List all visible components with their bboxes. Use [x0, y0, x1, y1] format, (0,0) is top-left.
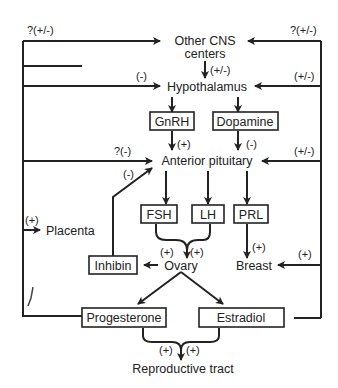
- sign-placenta: (+): [25, 214, 39, 226]
- gnrh-label: GnRH: [155, 115, 190, 129]
- left-feedback-lines: [22, 41, 160, 317]
- placenta-label: Placenta: [46, 224, 95, 238]
- sign-right-breast: (+): [298, 248, 312, 260]
- sign-left-ap: ?(-): [114, 145, 131, 157]
- sign-right-cns: ?(+/-): [290, 24, 317, 36]
- progesterone-label: Progesterone: [86, 311, 161, 325]
- inhibin-label: Inhibin: [95, 259, 132, 273]
- sign-lh-ovary: (+): [190, 246, 204, 258]
- sign-left-hypo: (-): [136, 70, 147, 82]
- right-feedback-lines: [248, 41, 321, 318]
- sign-right-hypo: (+/-): [294, 70, 314, 82]
- fsh-label: FSH: [147, 208, 172, 222]
- sign-left-cns: ?(+/-): [27, 24, 54, 36]
- sign-inhibin-ap: (-): [123, 168, 134, 180]
- hormone-regulation-diagram: Other CNS centers Hypothalamus GnRH Dopa…: [0, 0, 338, 388]
- sign-prog-tract: (+): [159, 344, 173, 356]
- hypothalamus-label: Hypothalamus: [167, 80, 247, 94]
- sign-prl-breast: (+): [252, 241, 266, 253]
- lh-label: LH: [200, 208, 216, 222]
- anterior-pituitary-label: Anterior pituitary: [161, 154, 253, 168]
- ovary-label: Ovary: [164, 259, 198, 273]
- sign-gnrh-ap: (+): [177, 138, 191, 150]
- other-cns-label: Other CNS: [174, 34, 235, 48]
- sign-cns-hypo: (+/-): [210, 64, 230, 76]
- prl-label: PRL: [239, 208, 263, 222]
- breast-label: Breast: [236, 259, 273, 273]
- estradiol-label: Estradiol: [217, 311, 266, 325]
- reproductive-tract-label: Reproductive tract: [132, 362, 234, 376]
- dopamine-label: Dopamine: [217, 115, 274, 129]
- sign-fsh-ovary: (+): [160, 246, 174, 258]
- sign-right-ap: (+/-): [294, 145, 314, 157]
- sign-dopamine-ap: (-): [246, 138, 257, 150]
- sign-estr-tract: (+): [186, 344, 200, 356]
- stray-mark: [28, 287, 33, 306]
- other-cns-label-2: centers: [185, 47, 226, 61]
